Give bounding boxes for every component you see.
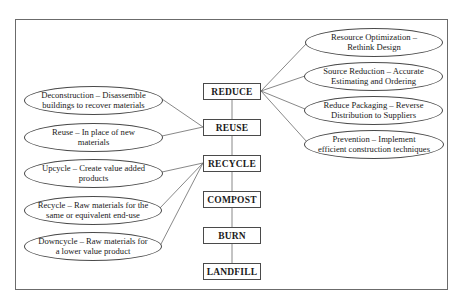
hierarchy-box-reuse: REUSE <box>203 119 261 136</box>
strategy-reduce-packaging: Reduce Packaging – ReverseDistribution t… <box>304 96 443 125</box>
strategy-recycle: Recycle – Raw materials for thesame or e… <box>24 196 162 225</box>
hierarchy-box-recycle: RECYCLE <box>203 155 261 172</box>
strategy-line: products <box>79 173 109 183</box>
strategy-reuse: Reuse – In place of newmaterials <box>24 123 163 152</box>
strategy-line: materials <box>78 137 110 147</box>
strategy-line: Distribution to Suppliers <box>331 110 416 120</box>
hierarchy-box-compost: COMPOST <box>203 191 261 208</box>
strategy-resource-optimization: Resource Optimization –Rethink Design <box>305 28 443 57</box>
strategy-downcycle: Downcycle – Raw materials fora lower val… <box>24 232 162 261</box>
strategy-line: buildings to recover materials <box>42 100 144 110</box>
strategy-upcycle: Upcycle – Create value addedproducts <box>24 159 163 188</box>
hierarchy-label: REUSE <box>216 123 249 133</box>
hierarchy-box-reduce: REDUCE <box>203 83 261 100</box>
hierarchy-label: BURN <box>218 231 246 241</box>
hierarchy-label: LANDFILL <box>207 267 258 277</box>
hierarchy-box-landfill: LANDFILL <box>203 263 261 280</box>
strategy-line: Estimating and Ordering <box>331 76 416 86</box>
strategy-line: a lower value product <box>56 246 131 256</box>
strategy-line: Rethink Design <box>347 42 401 52</box>
strategy-line: same or equivalent end-use <box>46 210 140 220</box>
hierarchy-label: REDUCE <box>211 87 252 97</box>
hierarchy-label: RECYCLE <box>208 159 256 169</box>
waste-hierarchy-diagram: REDUCE REUSE RECYCLE COMPOST BURN LANDFI… <box>0 0 463 308</box>
strategy-deconstruction: Deconstruction – Disassemblebuildings to… <box>24 86 163 115</box>
strategy-prevention: Prevention – Implementefficient construc… <box>304 130 444 159</box>
strategy-source-reduction: Source Reduction – AccurateEstimating an… <box>304 62 443 91</box>
hierarchy-label: COMPOST <box>207 195 256 205</box>
strategy-line: efficient construction techniques <box>318 144 430 154</box>
hierarchy-box-burn: BURN <box>203 227 261 244</box>
